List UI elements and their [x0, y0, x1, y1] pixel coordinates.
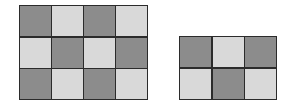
grid-cell-light: [52, 69, 83, 99]
checkerboard-grid-4x3: [19, 5, 148, 100]
grid-cell-dark: [116, 38, 147, 68]
grid-cell-light: [52, 6, 83, 36]
grid-cell-dark: [84, 6, 115, 36]
grid-cell-light: [245, 69, 276, 99]
grid-cell-dark: [20, 6, 51, 36]
grid-cell-dark: [245, 37, 276, 67]
grid-cell-dark: [20, 69, 51, 99]
grid-cell-dark: [213, 69, 244, 99]
grid-cell-light: [116, 69, 147, 99]
grid-cell-dark: [52, 38, 83, 68]
grid-cell-dark: [84, 69, 115, 99]
grid-cell-light: [84, 38, 115, 68]
grid-cell-light: [20, 38, 51, 68]
grid-cell-dark: [180, 37, 211, 67]
grid-cell-light: [180, 69, 211, 99]
checkerboard-grid-3x2: [179, 36, 277, 100]
grid-cell-light: [213, 37, 244, 67]
grid-cell-light: [116, 6, 147, 36]
